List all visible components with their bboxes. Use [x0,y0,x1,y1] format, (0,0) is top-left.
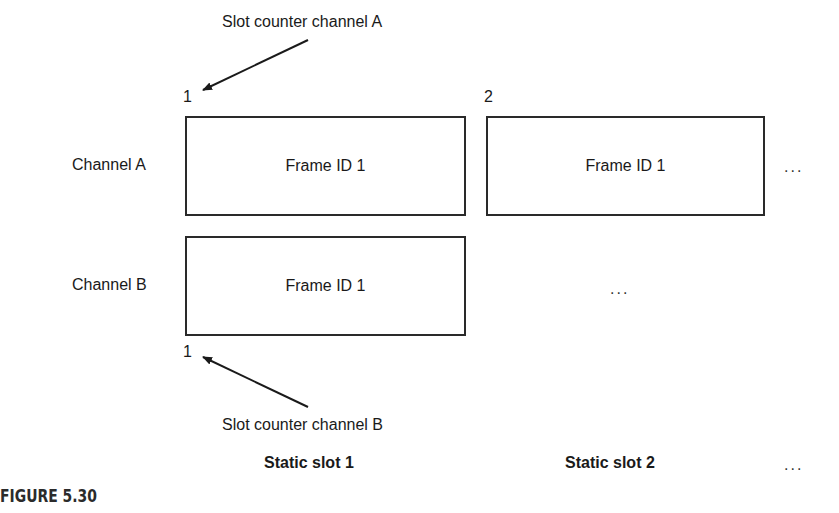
frame-a-slot-1-label: Frame ID 1 [285,157,365,175]
static-slot-2-label: Static slot 2 [565,454,655,472]
slot-number-a-2: 2 [484,88,493,106]
slot-number-a-1: 1 [183,88,192,106]
frame-b-slot-1: Frame ID 1 [185,236,466,336]
slot-number-b-1: 1 [183,343,192,361]
frame-a-slot-2-label: Frame ID 1 [585,157,665,175]
arrow-counter-b [203,357,308,407]
channel-a-label: Channel A [72,156,146,174]
channel-b-empty-slot: ... [610,280,629,298]
annotation-slot-counter-b: Slot counter channel B [222,416,383,434]
static-slots-continuation: ... [784,456,803,474]
annotation-slot-counter-a: Slot counter channel A [222,13,382,31]
channel-b-label: Channel B [72,276,147,294]
channel-a-continuation: ... [784,158,803,176]
frame-b-slot-1-label: Frame ID 1 [285,277,365,295]
static-slot-1-label: Static slot 1 [264,454,354,472]
frame-a-slot-2: Frame ID 1 [486,116,765,216]
arrow-counter-a [203,40,308,90]
figure-caption: FIGURE 5.30 [0,486,97,506]
frame-a-slot-1: Frame ID 1 [185,116,466,216]
